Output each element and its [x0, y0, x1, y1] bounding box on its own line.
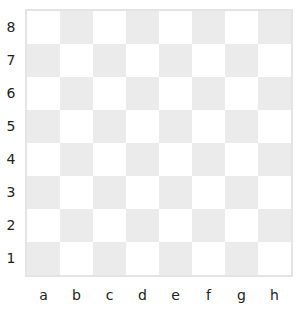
file-label: h [258, 287, 291, 303]
rank-label: 1 [4, 250, 18, 266]
square-e6[interactable] [159, 77, 192, 110]
square-b4[interactable] [60, 143, 93, 176]
square-h8[interactable] [258, 11, 291, 44]
square-d6[interactable] [126, 77, 159, 110]
square-b5[interactable] [60, 110, 93, 143]
square-e8[interactable] [159, 11, 192, 44]
square-c2[interactable] [93, 209, 126, 242]
file-label: a [27, 287, 60, 303]
chess-board [25, 9, 293, 277]
file-label: e [159, 287, 192, 303]
square-b1[interactable] [60, 242, 93, 275]
file-label: d [126, 287, 159, 303]
square-f4[interactable] [192, 143, 225, 176]
square-g7[interactable] [225, 44, 258, 77]
rank-label: 4 [4, 151, 18, 167]
square-e2[interactable] [159, 209, 192, 242]
rank-label: 7 [4, 52, 18, 68]
square-g5[interactable] [225, 110, 258, 143]
square-a2[interactable] [27, 209, 60, 242]
square-h7[interactable] [258, 44, 291, 77]
rank-label: 6 [4, 85, 18, 101]
square-c8[interactable] [93, 11, 126, 44]
square-g4[interactable] [225, 143, 258, 176]
square-b6[interactable] [60, 77, 93, 110]
square-f3[interactable] [192, 176, 225, 209]
square-f5[interactable] [192, 110, 225, 143]
square-d3[interactable] [126, 176, 159, 209]
file-label: c [93, 287, 126, 303]
square-b8[interactable] [60, 11, 93, 44]
square-g8[interactable] [225, 11, 258, 44]
square-e1[interactable] [159, 242, 192, 275]
square-a7[interactable] [27, 44, 60, 77]
square-h6[interactable] [258, 77, 291, 110]
square-g3[interactable] [225, 176, 258, 209]
square-g1[interactable] [225, 242, 258, 275]
square-d1[interactable] [126, 242, 159, 275]
square-b3[interactable] [60, 176, 93, 209]
square-e3[interactable] [159, 176, 192, 209]
square-e4[interactable] [159, 143, 192, 176]
rank-label: 2 [4, 217, 18, 233]
square-f7[interactable] [192, 44, 225, 77]
square-a5[interactable] [27, 110, 60, 143]
square-c6[interactable] [93, 77, 126, 110]
square-c5[interactable] [93, 110, 126, 143]
rank-label: 5 [4, 118, 18, 134]
square-d4[interactable] [126, 143, 159, 176]
square-c4[interactable] [93, 143, 126, 176]
file-label: f [192, 287, 225, 303]
square-c1[interactable] [93, 242, 126, 275]
rank-label: 3 [4, 184, 18, 200]
square-f1[interactable] [192, 242, 225, 275]
square-h3[interactable] [258, 176, 291, 209]
square-h5[interactable] [258, 110, 291, 143]
square-f8[interactable] [192, 11, 225, 44]
square-h2[interactable] [258, 209, 291, 242]
square-f2[interactable] [192, 209, 225, 242]
square-d8[interactable] [126, 11, 159, 44]
square-a6[interactable] [27, 77, 60, 110]
square-e5[interactable] [159, 110, 192, 143]
square-h4[interactable] [258, 143, 291, 176]
file-label: b [60, 287, 93, 303]
square-a1[interactable] [27, 242, 60, 275]
square-c3[interactable] [93, 176, 126, 209]
square-a8[interactable] [27, 11, 60, 44]
square-a3[interactable] [27, 176, 60, 209]
square-d2[interactable] [126, 209, 159, 242]
square-g2[interactable] [225, 209, 258, 242]
rank-label: 8 [4, 19, 18, 35]
square-d5[interactable] [126, 110, 159, 143]
square-a4[interactable] [27, 143, 60, 176]
square-f6[interactable] [192, 77, 225, 110]
square-e7[interactable] [159, 44, 192, 77]
square-d7[interactable] [126, 44, 159, 77]
square-g6[interactable] [225, 77, 258, 110]
square-c7[interactable] [93, 44, 126, 77]
square-b7[interactable] [60, 44, 93, 77]
square-b2[interactable] [60, 209, 93, 242]
square-h1[interactable] [258, 242, 291, 275]
file-label: g [225, 287, 258, 303]
